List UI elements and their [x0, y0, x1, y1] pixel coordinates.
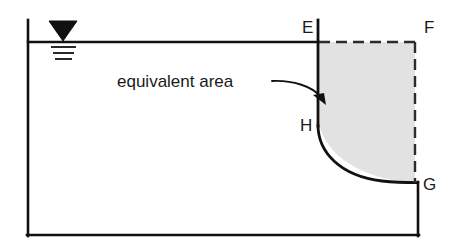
vertex-label-G: G [423, 175, 436, 194]
diagram-canvas: equivalent area E F G H [0, 0, 454, 251]
vertex-label-F: F [424, 18, 434, 37]
vertex-label-E: E [302, 18, 313, 37]
equivalent-area-label: equivalent area [117, 72, 234, 91]
curved-arrow-icon [272, 81, 321, 97]
equivalent-area-diagram: equivalent area E F G H [0, 0, 454, 251]
vertex-label-H: H [300, 116, 312, 135]
water-table-triangle-icon [49, 21, 77, 41]
